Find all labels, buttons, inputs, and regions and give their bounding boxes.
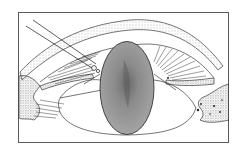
eye-diagram (0, 0, 240, 152)
